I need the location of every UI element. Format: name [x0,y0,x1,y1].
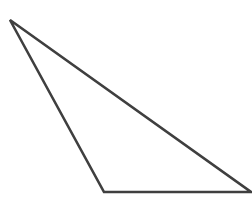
drawing-background [0,0,252,197]
figure-canvas [0,0,252,197]
triangle-drawing [0,0,252,197]
